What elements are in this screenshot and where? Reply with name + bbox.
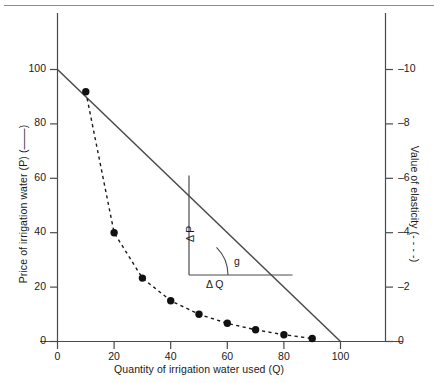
- y-axis-left-title: Price of irrigation water (P) (——): [17, 89, 29, 319]
- y-axis-left-tick-label: 0: [12, 334, 46, 346]
- y-axis-right-tick-label: –10: [398, 62, 432, 74]
- data-point: [82, 88, 89, 95]
- x-axis-ticks: [58, 342, 341, 350]
- y-axis-left-ticks: [50, 70, 58, 342]
- data-point: [252, 326, 259, 333]
- series-price-line: [58, 70, 341, 342]
- x-axis-tick-label: 80: [264, 350, 304, 362]
- data-point: [110, 229, 117, 236]
- delta-q-label: Δ Q: [206, 278, 224, 290]
- x-axis-tick-label: 100: [321, 350, 361, 362]
- y-axis-right-title: Value of elasticity (- - - -): [409, 89, 421, 319]
- data-point: [224, 320, 231, 327]
- x-axis-title: Quantity of irrigation water used (Q): [57, 363, 341, 375]
- y-axis-right-tick-label: 0: [398, 334, 432, 346]
- data-point: [195, 311, 202, 318]
- x-axis-tick-label: 20: [94, 350, 134, 362]
- y-axis-left-tick-label: 100: [12, 62, 46, 74]
- x-axis-tick-label: 60: [207, 350, 247, 362]
- slope-triangle: [189, 176, 293, 275]
- angle-arc: [217, 247, 229, 275]
- chart-figure: 100 80 60 40 20 0 –10 –8 –6 –4 –2 0 0 20…: [0, 0, 438, 383]
- x-axis-tick-label: 40: [151, 350, 191, 362]
- data-point: [309, 335, 316, 342]
- angle-gamma-label: g: [234, 255, 240, 267]
- delta-p-label: Δ P: [184, 226, 196, 242]
- x-axis-tick-label: 0: [38, 350, 78, 362]
- plot-area: [0, 0, 438, 383]
- y-axis-right-ticks: [386, 70, 394, 342]
- data-point: [167, 297, 174, 304]
- data-point: [280, 331, 287, 338]
- data-point: [139, 274, 146, 281]
